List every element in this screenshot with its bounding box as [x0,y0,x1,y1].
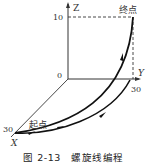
y-axis-label: Y [138,68,145,78]
end-point-label: 终点 [119,4,137,15]
helix-path-curve [15,17,133,133]
z-tick-10: 10 [53,13,63,22]
direction-arrow-icon [120,53,123,61]
origin-label: 0 [57,71,62,80]
z-axis-label: Z [73,3,79,13]
start-point-label: 起点 [29,120,47,130]
figure-caption: 图 2-13 螺旋线编程 [0,150,147,164]
y-tick-30: 30 [131,85,141,94]
helix-programming-diagram: Z 10 终点 0 Y 30 30 X 起点 图 2-13 螺旋线编程 [0,0,147,167]
z-axis [66,2,70,79]
x-tick-30: 30 [3,125,13,134]
direction-arrow-icon [99,112,106,118]
x-axis-label: X [10,138,18,148]
